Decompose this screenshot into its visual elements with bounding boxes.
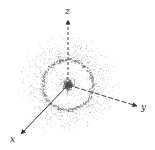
x-axis-label: x: [10, 134, 15, 144]
x-axis: [21, 85, 68, 134]
y-axis: [68, 85, 137, 106]
y-axis-label: y: [140, 102, 147, 112]
z-axis-label: z: [64, 6, 70, 16]
orbital-diagram: z y x: [0, 0, 155, 150]
